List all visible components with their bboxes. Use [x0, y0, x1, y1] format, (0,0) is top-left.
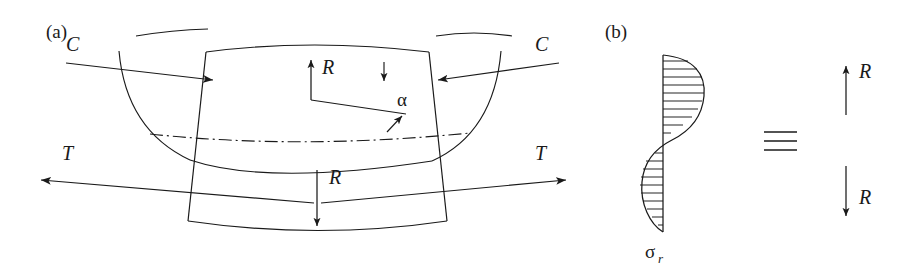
- label-radial-down: R: [858, 186, 871, 208]
- panel-a-label: (a): [46, 21, 67, 43]
- label-radial-up: R: [858, 60, 871, 82]
- engineering-diagram: (a) C C α R: [0, 0, 915, 274]
- label-compression-right: C: [535, 33, 549, 55]
- label-radial-top: R: [321, 56, 334, 78]
- canvas-background: [0, 0, 915, 274]
- label-compression-left: C: [66, 33, 80, 55]
- label-stress-sigma: σ: [645, 241, 655, 262]
- label-radial-bottom: R: [328, 166, 341, 188]
- label-angle: α: [397, 89, 407, 110]
- figure-container: (a) C C α R: [0, 0, 915, 274]
- panel-b-label: (b): [605, 21, 627, 43]
- label-tension-right: T: [535, 142, 548, 164]
- label-tension-left: T: [62, 142, 75, 164]
